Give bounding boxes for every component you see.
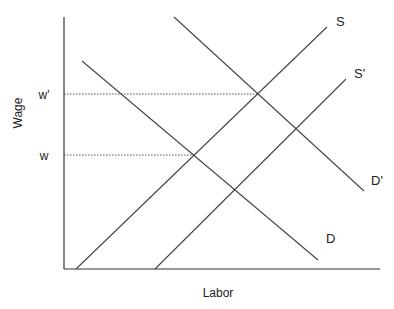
label-d: D [326,231,335,246]
label-d-prime: D' [371,173,383,188]
y-axis-title: Wage [11,97,25,128]
curve-d [82,61,318,260]
label-s: S [336,14,345,29]
tick-label-w-prime: w' [38,88,50,102]
supply-demand-chart: S S' D D' w' w Wage Labor [0,0,394,309]
label-s-prime: S' [354,66,365,81]
tick-label-w: w [39,149,49,163]
x-axis-title: Labor [203,286,234,300]
curve-s-prime [155,79,346,269]
curve-s [76,27,327,269]
curve-d-prime [174,17,364,191]
